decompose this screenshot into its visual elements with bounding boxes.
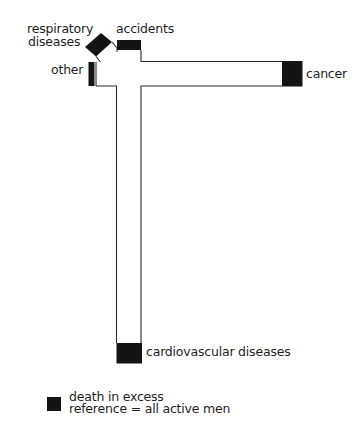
legend: death in excess reference = all active m…	[69, 391, 230, 414]
cancer-excess-segment	[282, 61, 303, 87]
cardiovascular-label: cardiovascular diseases	[146, 346, 291, 357]
cardiovascular-excess-segment	[117, 343, 143, 364]
legend-reference-label: reference = all active men	[69, 403, 230, 415]
respiratory-excess-segment	[85, 33, 112, 57]
respiratory-label-line2: diseases	[28, 36, 80, 47]
mortality-diagram: respiratory diseases accidents other can…	[0, 0, 363, 441]
respiratory-label-line1: respiratory	[27, 23, 93, 34]
other-label: other	[51, 64, 83, 75]
cancer-label: cancer	[306, 68, 347, 79]
other-excess-segment	[89, 62, 95, 86]
legend-excess-swatch	[47, 397, 61, 411]
excess-segments	[85, 33, 303, 364]
accidents-label: accidents	[116, 23, 174, 34]
accidents-excess-segment	[117, 40, 141, 50]
cross-outline	[96, 42, 282, 343]
